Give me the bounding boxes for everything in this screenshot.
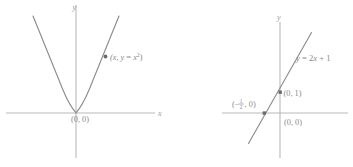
x-intercept-label-suffix: , 0) bbox=[245, 100, 256, 109]
line-plot: y = 2x + 1 (0, 1) (− 1 2 , 0) (0, 0) y bbox=[176, 0, 353, 167]
curve-point-marker bbox=[104, 55, 108, 59]
panel-parabola: (x, y = x2) (0, 0) y x bbox=[0, 0, 176, 167]
x-axis-label: x bbox=[157, 109, 162, 118]
y-axis-label: y bbox=[72, 3, 77, 12]
y-intercept-marker bbox=[279, 91, 282, 94]
x-intercept-label: (− 1 2 , 0) bbox=[232, 98, 256, 111]
equation-label: y = 2x + 1 bbox=[295, 53, 331, 63]
origin-label: (0, 0) bbox=[71, 115, 89, 124]
x-intercept-denominator: 2 bbox=[240, 104, 243, 110]
x-intercept-marker bbox=[263, 111, 266, 114]
x-intercept-numerator: 1 bbox=[240, 98, 243, 104]
curve-point-label: (x, y = x2) bbox=[110, 52, 143, 62]
y-axis-label: y bbox=[276, 13, 281, 22]
figure-canvas: (x, y = x2) (0, 0) y x y = 2x + 1 (0, 1) bbox=[0, 0, 353, 167]
panel-line: y = 2x + 1 (0, 1) (− 1 2 , 0) (0, 0) y bbox=[176, 0, 353, 167]
origin-label: (0, 0) bbox=[284, 118, 302, 127]
parabola-plot: (x, y = x2) (0, 0) y x bbox=[0, 0, 176, 167]
y-intercept-label: (0, 1) bbox=[284, 89, 302, 98]
x-intercept-label-prefix: (− bbox=[232, 100, 240, 109]
